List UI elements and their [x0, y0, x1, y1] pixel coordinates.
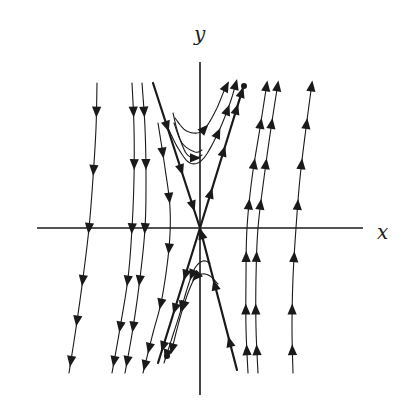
separatrix-unstable-left-lower — [158, 228, 200, 363]
arrowhead-icon — [142, 359, 151, 371]
arrowhead-icon — [251, 303, 260, 314]
arrowhead-icon — [293, 199, 302, 210]
arrowhead-icon — [124, 275, 133, 286]
point-marker — [164, 353, 170, 359]
trajectory — [287, 80, 315, 373]
trajectories — [67, 79, 315, 373]
y-axis-label: y — [194, 22, 205, 46]
arrowhead-icon — [221, 104, 230, 116]
arrowhead-icon — [255, 118, 264, 130]
arrowhead-icon — [181, 300, 190, 312]
arrowhead-icon — [306, 80, 315, 92]
trajectory — [251, 80, 281, 373]
trajectory — [169, 270, 218, 354]
arrowhead-icon — [288, 344, 297, 355]
arrowhead-icon — [92, 107, 101, 118]
arrowhead-icon — [252, 251, 261, 262]
arrowhead-icon — [244, 199, 253, 210]
arrowhead-icon — [252, 344, 261, 355]
markers — [164, 83, 247, 359]
separatrix-stable-right-lower — [198, 228, 237, 370]
x-axis-label: x — [377, 220, 388, 244]
arrowhead-icon — [165, 243, 174, 254]
arrowhead-icon — [205, 188, 214, 200]
arrowhead-icon — [175, 163, 184, 175]
arrowhead-icon — [197, 125, 208, 136]
arrowhead-icon — [231, 104, 240, 116]
arrowhead-icon — [73, 315, 82, 327]
trajectory-path — [175, 83, 228, 133]
arrowhead-icon — [241, 303, 250, 314]
arrowhead-icon — [164, 192, 173, 203]
arrowhead-icon — [261, 80, 270, 92]
arrowhead-icon — [67, 355, 76, 367]
arrowhead-icon — [130, 159, 139, 170]
arrowhead-icon — [266, 118, 275, 130]
arrowhead-icon — [161, 120, 170, 132]
arrowhead-icon — [157, 147, 166, 159]
arrowhead-icon — [111, 355, 120, 367]
phase-portrait — [0, 0, 407, 408]
arrowhead-icon — [187, 200, 196, 212]
arrowhead-icon — [230, 79, 239, 91]
arrowhead-icon — [124, 355, 133, 367]
arrowhead-icon — [129, 321, 138, 333]
arrowhead-icon — [141, 159, 150, 170]
arrowhead-icon — [136, 275, 145, 286]
arrowhead-icon — [157, 298, 166, 310]
arrowhead-icon — [241, 251, 250, 262]
separatrix-stable-right-lower-path — [200, 228, 237, 370]
arrowhead-icon — [79, 275, 88, 287]
arrowhead-icon — [255, 199, 264, 210]
separatrices — [153, 83, 245, 370]
arrowhead-icon — [89, 165, 98, 176]
arrowhead-icon — [289, 251, 298, 262]
arrowhead-icon — [249, 158, 258, 170]
arrowhead-icon — [129, 106, 138, 117]
trajectory-path — [173, 113, 202, 158]
arrowhead-icon — [218, 146, 227, 158]
point-marker — [241, 83, 247, 89]
trajectory-path — [171, 274, 218, 353]
arrowhead-icon — [261, 158, 270, 170]
arrowhead-icon — [139, 106, 148, 117]
arrowhead-icon — [301, 118, 310, 129]
arrowhead-icon — [117, 321, 126, 333]
arrowhead-icon — [287, 303, 296, 314]
arrowhead-icon — [296, 158, 305, 169]
separatrix-unstable-right-upper — [200, 87, 245, 228]
arrowhead-icon — [242, 344, 251, 355]
arrowhead-icon — [146, 342, 155, 354]
arrowhead-icon — [272, 80, 281, 92]
